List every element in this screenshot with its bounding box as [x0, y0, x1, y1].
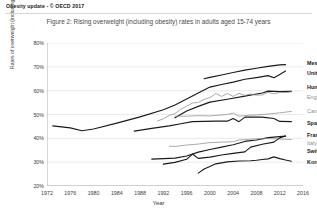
series-label-italy: Italy: [307, 140, 317, 146]
series-label-switzerland: Switzerland: [307, 148, 317, 154]
series-label-france: France: [307, 132, 317, 138]
series-label-united-states: United States: [307, 70, 317, 76]
series-line-spain: [134, 117, 291, 131]
figure-title: Figure 2: Rising overweight (including o…: [0, 18, 317, 25]
x-tick-label: 2000: [204, 190, 216, 196]
y-tick-label: 40%: [33, 135, 44, 141]
y-tick-label: 50%: [33, 112, 44, 118]
header-divider: [5, 13, 312, 14]
x-tick-label: 2012: [274, 190, 286, 196]
x-tick-label: 1984: [111, 190, 123, 196]
page-header: Obesity update - © OECD 2017: [6, 3, 84, 9]
series-label-spain: Spain: [307, 120, 317, 126]
x-tick-label: 2016: [297, 190, 309, 196]
y-axis-title: Rates of overweight (including obesity): [9, 0, 15, 69]
series-label-mexico: Mexico: [307, 60, 317, 66]
chart-plot-area: Rates of overweight (including obesity) …: [47, 43, 303, 186]
series-line-hungary: [175, 91, 291, 118]
series-line-switzerland: [163, 136, 285, 164]
series-label-korea: Korea: [307, 159, 317, 165]
x-tick-label: 1992: [157, 190, 169, 196]
y-tick-label: 30%: [33, 159, 44, 165]
x-tick-label: 2008: [251, 190, 263, 196]
chart-svg: [47, 43, 303, 186]
series-label-canada: Canada: [307, 108, 317, 114]
x-tick-label: 2004: [227, 190, 239, 196]
series-line-united-states: [53, 71, 286, 131]
series-line-korea: [198, 157, 291, 173]
y-tick-label: 60%: [33, 88, 44, 94]
x-tick-label: 1972: [41, 190, 53, 196]
x-tick-label: 1996: [181, 190, 193, 196]
y-tick-label: 80%: [33, 40, 44, 46]
series-label-hungary: Hungary: [307, 84, 317, 90]
y-tick-label: 70%: [33, 64, 44, 70]
x-axis-title: Year: [0, 200, 317, 206]
figure-page: Obesity update - © OECD 2017 Figure 2: R…: [0, 0, 317, 222]
x-tick-label: 1988: [134, 190, 146, 196]
y-tick-label: 20%: [33, 183, 44, 189]
series-label-england: England: [307, 94, 317, 100]
series-line-canada: [175, 111, 291, 116]
x-tick-label: 1976: [64, 190, 76, 196]
x-tick-label: 1980: [88, 190, 100, 196]
